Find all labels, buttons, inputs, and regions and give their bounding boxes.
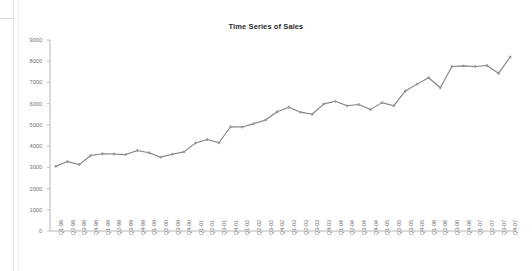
- axes: [47, 40, 516, 231]
- data-point-marker: [252, 122, 255, 125]
- series-markers-sales: [54, 55, 512, 168]
- series-line-sales: [56, 57, 510, 166]
- data-point-marker: [474, 65, 477, 68]
- data-point-marker: [171, 152, 174, 155]
- data-point-marker: [112, 152, 115, 155]
- data-point-marker: [124, 153, 127, 156]
- data-point-marker: [287, 106, 290, 109]
- data-point-marker: [101, 152, 104, 155]
- data-point-marker: [357, 103, 360, 106]
- sales-line-chart: Time Series of Sales 9000800070006000500…: [0, 0, 532, 271]
- plot-canvas: [0, 0, 532, 271]
- data-point-marker: [159, 155, 162, 158]
- data-point-marker: [136, 149, 139, 152]
- data-point-marker: [334, 100, 337, 103]
- data-point-marker: [66, 160, 69, 163]
- data-point-marker: [54, 165, 57, 168]
- data-point-marker: [462, 64, 465, 67]
- data-point-marker: [147, 151, 150, 154]
- data-point-marker: [299, 110, 302, 113]
- data-point-marker: [241, 125, 244, 128]
- data-point-marker: [345, 104, 348, 107]
- data-series-sales: [54, 55, 512, 168]
- data-point-marker: [206, 138, 209, 141]
